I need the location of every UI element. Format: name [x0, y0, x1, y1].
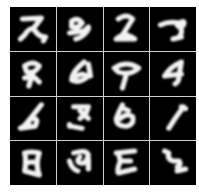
digit-stroke-image — [57, 97, 103, 140]
digit-sample-r3-c3 — [150, 141, 196, 185]
digit-stroke — [160, 21, 184, 39]
digit-sample-r0-c1 — [57, 7, 103, 51]
digit-stroke-image — [57, 141, 103, 185]
digit-sample-r2-c2 — [104, 97, 149, 140]
digit-sample-r2-c0 — [10, 97, 56, 140]
digit-sample-r3-c2 — [104, 141, 149, 185]
digit-stroke-image — [150, 141, 196, 185]
digit-stroke-image — [104, 141, 149, 185]
digit-stroke — [20, 18, 45, 41]
digit-stroke-image — [10, 52, 56, 96]
digit-stroke — [116, 151, 134, 173]
digit-stroke — [70, 19, 89, 39]
digit-stroke — [165, 62, 182, 84]
digit-stroke — [25, 152, 40, 175]
digit-stroke — [165, 151, 186, 171]
digit-stroke-image — [10, 141, 56, 185]
digit-sample-r1-c1 — [57, 52, 103, 96]
digit-sample-r2-c1 — [57, 97, 103, 140]
digit-stroke-image — [150, 97, 196, 140]
digit-stroke-image — [104, 97, 149, 140]
digit-stroke — [116, 16, 134, 39]
digit-stroke-image — [104, 7, 149, 51]
digit-sample-r3-c0 — [10, 141, 56, 185]
sample-grid-frame — [10, 7, 196, 185]
digit-sample-r1-c0 — [10, 52, 56, 96]
digit-sample-r3-c1 — [57, 141, 103, 185]
digit-stroke — [70, 151, 89, 171]
digit-sample-r1-c3 — [150, 52, 196, 96]
digit-stroke — [169, 107, 186, 129]
digit-stroke — [116, 105, 133, 127]
digit-stroke — [114, 64, 139, 88]
digit-stroke-image — [10, 97, 56, 140]
digit-sample-r0-c3 — [150, 7, 196, 51]
sample-grid — [10, 7, 196, 185]
digit-stroke-image — [150, 7, 196, 51]
digit-stroke — [70, 107, 89, 129]
digit-stroke — [25, 63, 40, 86]
digit-stroke-image — [104, 52, 149, 96]
digit-sample-r0-c0 — [10, 7, 56, 51]
digit-sample-r0-c2 — [104, 7, 149, 51]
digit-stroke — [20, 105, 41, 128]
digit-sample-r2-c3 — [150, 97, 196, 140]
digit-stroke-image — [150, 52, 196, 96]
digit-stroke-image — [10, 7, 56, 51]
digit-stroke — [72, 62, 91, 81]
digit-stroke-image — [57, 52, 103, 96]
digit-stroke-image — [57, 7, 103, 51]
digit-sample-r1-c2 — [104, 52, 149, 96]
